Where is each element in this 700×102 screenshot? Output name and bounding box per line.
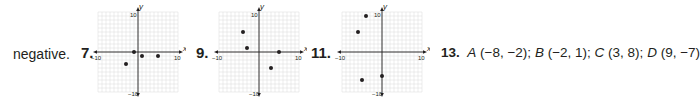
point-label-c: C xyxy=(595,45,605,60)
svg-text:10: 10 xyxy=(295,55,302,61)
svg-text:y: y xyxy=(259,2,265,11)
svg-text:10: 10 xyxy=(374,12,381,18)
svg-text:−10: −10 xyxy=(128,91,139,97)
exercise-number-9: 9. xyxy=(196,45,209,61)
graph-7: xy−101010−10 xyxy=(90,2,186,102)
point-coords-c: (3, 8); xyxy=(608,45,643,60)
svg-text:−10: −10 xyxy=(91,55,102,61)
svg-text:y: y xyxy=(382,2,388,11)
answer-13: 13. A (−8, −2); B (−2, 1); C (3, 8); D (… xyxy=(441,45,700,61)
point-coords-d: (9, −7) xyxy=(661,45,700,60)
point-label-b: B xyxy=(535,45,544,60)
svg-text:10: 10 xyxy=(418,55,425,61)
svg-text:−10: −10 xyxy=(335,55,346,61)
svg-text:x: x xyxy=(426,44,430,53)
point-label-a: A xyxy=(467,45,476,60)
svg-text:−10: −10 xyxy=(249,91,260,97)
svg-text:y: y xyxy=(138,2,144,11)
svg-text:−10: −10 xyxy=(372,91,383,97)
point-label-d: D xyxy=(647,45,657,60)
point-coords-a: (−8, −2); xyxy=(480,45,531,60)
exercise-number-13: 13. xyxy=(441,45,460,60)
svg-text:x: x xyxy=(182,44,186,53)
svg-text:10: 10 xyxy=(251,12,258,18)
svg-text:10: 10 xyxy=(174,55,181,61)
lead-text: negative. xyxy=(13,46,70,62)
graph-9: xy−101010−10 xyxy=(211,2,307,102)
svg-text:x: x xyxy=(303,44,307,53)
point-coords-b: (−2, 1); xyxy=(548,45,591,60)
svg-text:10: 10 xyxy=(130,12,137,18)
exercise-number-11: 11. xyxy=(311,45,331,61)
svg-text:−10: −10 xyxy=(212,55,223,61)
graph-11: xy−101010−10 xyxy=(334,2,430,102)
